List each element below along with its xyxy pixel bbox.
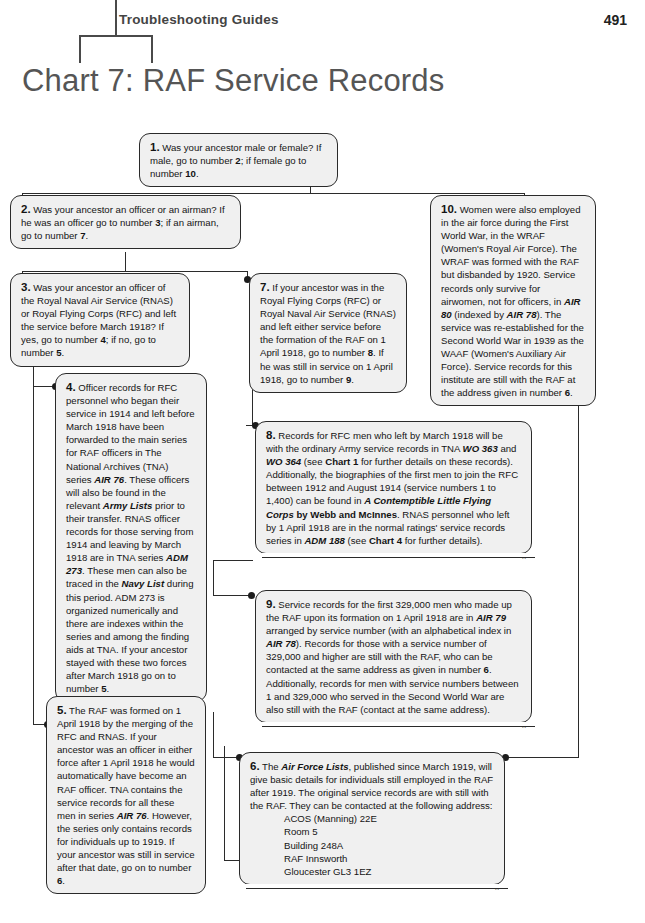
header-rule-vertical-right: [151, 35, 153, 63]
page-title: Chart 7: RAF Service Records: [22, 63, 445, 99]
flow-node-4-number: 4.: [66, 381, 76, 393]
flow-node-8-text: Records for RFC men who left by March 19…: [266, 430, 518, 546]
shadow-mark-6: x: [495, 881, 499, 894]
connector-5-to-6-trunk: [224, 746, 225, 861]
flow-node-9[interactable]: 9. Service records for the first 329,000…: [255, 590, 532, 723]
running-head: Troubleshooting Guides: [119, 12, 279, 27]
flow-node-2-text: Was your ancestor an officer or an airma…: [21, 204, 225, 241]
flow-node-2[interactable]: 2. Was your ancestor an officer or an ai…: [10, 195, 241, 249]
junction-dot-9: [248, 592, 255, 599]
header-rule-vertical-left: [79, 35, 81, 63]
flow-node-9-number: 9.: [266, 598, 276, 610]
flow-node-1-number: 1.: [150, 141, 160, 153]
flow-node-3[interactable]: 3. Was your ancestor an officer of the R…: [10, 273, 190, 367]
flow-node-10-text: Women were also employed in the air forc…: [441, 204, 584, 398]
page-number: 491: [604, 12, 627, 28]
connector-10-down: [578, 386, 579, 758]
flow-node-5-text: The RAF was formed on 1 April 1918 by th…: [57, 705, 195, 886]
flow-node-3-number: 3.: [21, 281, 31, 293]
flow-node-8[interactable]: 8. Records for RFC men who left by March…: [255, 421, 532, 554]
connector-7-trunk-9-h: [213, 560, 253, 561]
flow-node-9-text: Service records for the first 329,000 me…: [266, 599, 519, 715]
flow-node-6-text: The Air Force Lists, published since Mar…: [250, 761, 494, 878]
connector-10-to-6: [505, 757, 579, 758]
flow-node-6-number: 6.: [250, 760, 260, 772]
header-rule-vertical-top: [115, 0, 117, 36]
flow-node-10[interactable]: 10. Women were also employed in the air …: [430, 195, 596, 406]
flow-node-2-number: 2.: [21, 203, 31, 215]
flow-node-7[interactable]: 7. If your ancestor was in the Royal Fly…: [249, 273, 407, 393]
flow-node-7-number: 7.: [260, 281, 270, 293]
page: Troubleshooting Guides 491 Chart 7: RAF …: [0, 0, 645, 923]
flow-node-5[interactable]: 5. The RAF was formed on 1 April 1918 by…: [46, 696, 206, 894]
header-rule-horizontal: [79, 35, 153, 37]
flow-node-3-text: Was your ancestor an officer of the Roya…: [21, 282, 176, 358]
flow-node-8-number: 8.: [266, 429, 276, 441]
connector-7-trunk-9: [213, 560, 214, 596]
connector-2-down: [125, 252, 126, 272]
flow-node-4-text: Officer records for RFC personnel who be…: [66, 382, 195, 694]
connector-3-left-trunk: [33, 350, 34, 725]
connector-9-to-6-trunk: [213, 712, 214, 758]
shadow-mark-9: x: [522, 719, 526, 732]
flow-node-1-text: Was your ancestor male or female? If mal…: [150, 142, 321, 179]
connector-to-9: [213, 595, 253, 596]
flow-node-7-text: If your ancestor was in the Royal Flying…: [260, 282, 396, 385]
flow-node-6[interactable]: 6. The Air Force Lists, published since …: [239, 752, 505, 885]
flow-node-4[interactable]: 4. Officer records for RFC personnel who…: [55, 373, 207, 702]
shadow-mark-8: x: [522, 550, 526, 563]
flow-node-1[interactable]: 1. Was your ancestor male or female? If …: [139, 133, 338, 187]
flow-node-5-number: 5.: [57, 704, 67, 716]
flow-node-10-number: 10.: [441, 203, 457, 215]
